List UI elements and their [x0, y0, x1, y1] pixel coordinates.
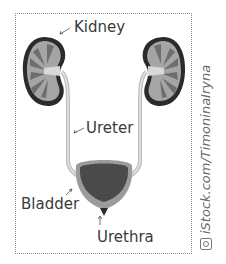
urethra-label: Urethra — [97, 230, 154, 245]
kidney-right — [143, 37, 185, 106]
kidney-label: Kidney — [74, 20, 125, 35]
bladder — [76, 160, 133, 216]
credit-text: iStock.com/TimoninaIryna — [198, 65, 213, 234]
ureter-label: Ureter — [86, 121, 133, 136]
ureter-left — [62, 72, 78, 176]
kidney-left — [23, 37, 65, 106]
bladder-label: Bladder — [21, 197, 79, 212]
camera-icon — [200, 238, 212, 250]
image-credit: iStock.com/TimoninaIryna — [198, 65, 213, 250]
